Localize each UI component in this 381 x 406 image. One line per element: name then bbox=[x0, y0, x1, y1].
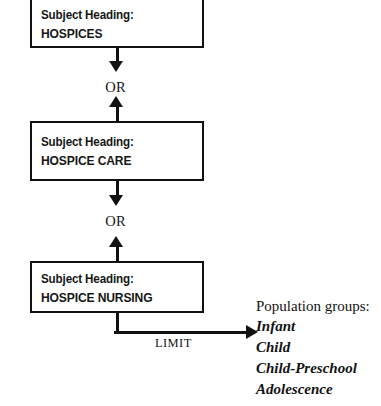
node-box-hospice-care-content: Subject Heading: HOSPICE CARE bbox=[41, 135, 196, 169]
flowchart-diagram: Subject Heading: HOSPICES OR Subject Hea… bbox=[0, 0, 381, 406]
node-box-hospice-care-label: Subject Heading: bbox=[41, 135, 185, 150]
node-box-hospice-care-term: HOSPICE CARE bbox=[41, 152, 185, 169]
list-item: Infant bbox=[256, 316, 381, 337]
population-groups-heading: Population groups: bbox=[256, 296, 381, 316]
population-groups-list: Infant Child Child-Preschool Adolescence bbox=[256, 316, 381, 400]
node-box-hospices-content: Subject Heading: HOSPICES bbox=[41, 8, 196, 42]
connector-or-2-label: OR bbox=[0, 213, 231, 230]
arrow-down-icon bbox=[109, 195, 123, 206]
connector-or-1-up-stem bbox=[116, 106, 119, 122]
node-box-hospice-nursing-label: Subject Heading: bbox=[41, 272, 185, 287]
list-item: Child-Preschool bbox=[256, 358, 381, 379]
node-box-hospice-nursing[interactable]: Subject Heading: HOSPICE NURSING bbox=[30, 261, 204, 313]
node-box-hospice-nursing-content: Subject Heading: HOSPICE NURSING bbox=[41, 272, 196, 306]
list-item: Child bbox=[256, 337, 381, 358]
connector-or-1-label: OR bbox=[0, 79, 231, 96]
arrow-down-icon bbox=[109, 61, 123, 72]
connector-or-1-down-stem bbox=[116, 46, 119, 62]
node-box-hospices-term: HOSPICES bbox=[41, 25, 185, 42]
connector-limit-label: LIMIT bbox=[155, 336, 192, 351]
connector-or-2-up-stem bbox=[116, 246, 119, 262]
node-box-hospices[interactable]: Subject Heading: HOSPICES bbox=[30, 0, 204, 48]
connector-or-2-down-stem bbox=[116, 180, 119, 196]
node-box-hospices-label: Subject Heading: bbox=[41, 8, 185, 23]
node-box-hospice-nursing-term: HOSPICE NURSING bbox=[41, 289, 185, 306]
population-groups-block: Population groups: Infant Child Child-Pr… bbox=[256, 296, 381, 400]
list-item: Adolescence bbox=[256, 379, 381, 400]
connector-limit-horizontal-run bbox=[114, 331, 248, 334]
node-box-hospice-care[interactable]: Subject Heading: HOSPICE CARE bbox=[30, 121, 204, 181]
